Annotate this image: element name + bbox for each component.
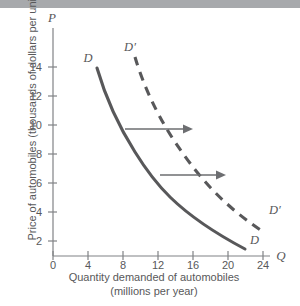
x-axis-variable-label: Q [276,248,286,263]
plot-area: 2 4 6 8 10 12 14 0 4 8 12 16 20 24 P Q [0,0,300,306]
x-axis-title: Quantity demanded of automobiles (millio… [38,270,270,298]
curve-label-original-top: D [82,51,92,65]
y-axis-variable-label: P [47,10,56,25]
curve-label-shifted-top: D′ [123,40,136,54]
x-axis-title-line2: (millions per year) [38,284,270,298]
y-axis-title: Price of automobiles (thousands of dolla… [26,13,39,241]
demand-curve-original [97,68,245,249]
x-axis-title-line1: Quantity demanded of automobiles [38,270,270,284]
curve-label-original-bottom: D [249,233,259,247]
demand-curve-figure: 2 4 6 8 10 12 14 0 4 8 12 16 20 24 P Q [0,0,300,306]
demand-shift-arrow-lower [160,171,226,180]
demand-shift-arrow-upper [125,125,193,134]
curve-label-shifted-bottom: D′ [268,203,281,217]
demand-curve-shifted [135,57,262,231]
